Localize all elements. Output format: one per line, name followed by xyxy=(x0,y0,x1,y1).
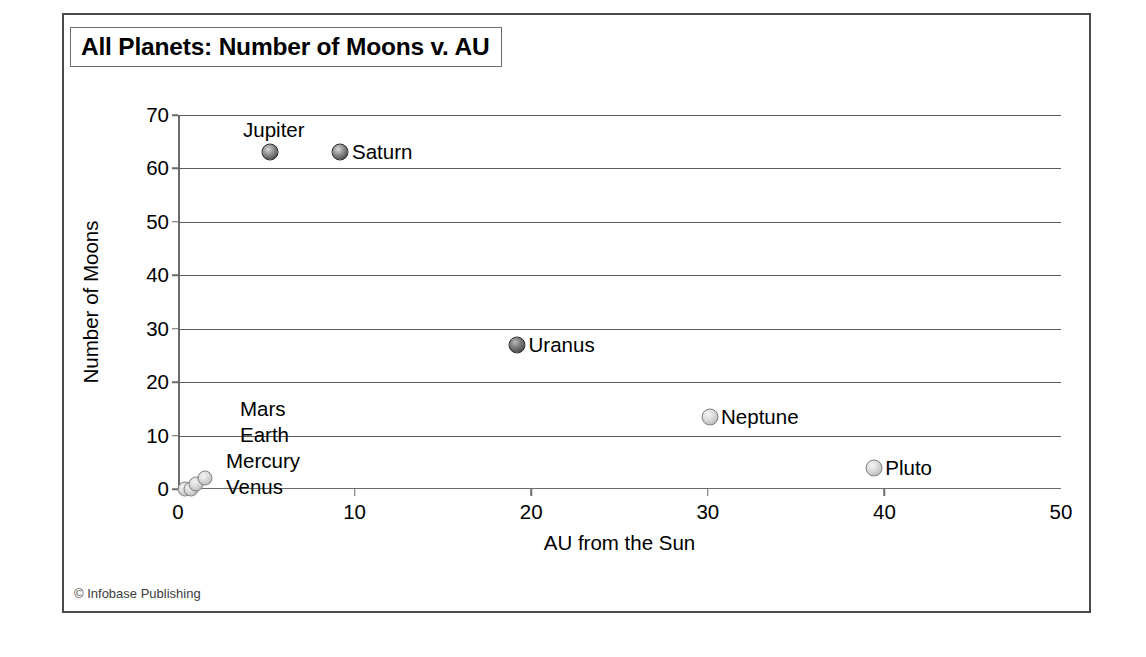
y-tick-mark xyxy=(172,168,178,170)
y-tick-label: 20 xyxy=(146,370,169,394)
label-mercury: Mercury xyxy=(226,449,300,473)
x-tick-label: 30 xyxy=(696,500,719,524)
chart-title-box: All Planets: Number of Moons v. AU xyxy=(70,27,502,67)
x-tick-mark xyxy=(354,489,356,496)
y-tick-mark xyxy=(172,221,178,223)
y-tick-mark xyxy=(172,435,178,437)
copyright-credit: © Infobase Publishing xyxy=(74,586,201,601)
y-tick-mark xyxy=(172,328,178,330)
data-point-pluto[interactable] xyxy=(865,459,882,476)
data-point-uranus[interactable] xyxy=(509,336,526,353)
page-title: All Planets: Number of Moons v. AU xyxy=(81,33,489,61)
y-tick-label: 40 xyxy=(146,263,169,287)
x-tick-label: 10 xyxy=(343,500,366,524)
label-saturn: Saturn xyxy=(352,140,412,164)
label-neptune: Neptune xyxy=(721,405,799,429)
x-axis-title: AU from the Sun xyxy=(178,531,1061,555)
label-jupiter: Jupiter xyxy=(243,118,305,142)
gridline xyxy=(178,222,1061,223)
label-pluto: Pluto xyxy=(885,456,932,480)
y-tick-label: 70 xyxy=(146,103,169,127)
y-tick-label: 60 xyxy=(146,156,169,180)
x-tick-label: 40 xyxy=(873,500,896,524)
y-tick-label: 50 xyxy=(146,210,169,234)
x-tick-label: 0 xyxy=(172,500,183,524)
chart-figure-frame: All Planets: Number of Moons v. AU Numbe… xyxy=(62,13,1091,613)
data-point-saturn[interactable] xyxy=(332,144,349,161)
x-tick-label: 20 xyxy=(520,500,543,524)
gridline xyxy=(178,436,1061,437)
x-tick-mark xyxy=(884,489,886,496)
gridline xyxy=(178,168,1061,169)
x-axis-title-text: AU from the Sun xyxy=(544,531,696,554)
data-point-mars[interactable] xyxy=(197,471,212,486)
x-tick-label: 50 xyxy=(1050,500,1073,524)
x-axis-line xyxy=(178,488,1061,490)
label-earth: Earth xyxy=(240,423,289,447)
gridline xyxy=(178,382,1061,383)
y-tick-label: 30 xyxy=(146,317,169,341)
gridline xyxy=(178,329,1061,330)
label-uranus: Uranus xyxy=(529,333,595,357)
y-axis-line xyxy=(178,115,180,489)
label-venus: Venus xyxy=(226,475,283,499)
label-mars: Mars xyxy=(240,397,286,421)
gridline xyxy=(178,275,1061,276)
data-point-jupiter[interactable] xyxy=(261,144,278,161)
y-tick-mark xyxy=(172,114,178,116)
y-tick-label: 0 xyxy=(158,477,169,501)
y-tick-mark xyxy=(172,381,178,383)
y-axis-title: Number of Moons xyxy=(78,115,104,489)
data-point-neptune[interactable] xyxy=(701,408,718,425)
x-tick-mark xyxy=(530,489,532,496)
y-tick-label: 10 xyxy=(146,424,169,448)
plot-area: 010203040506070 01020304050 JupiterSatur… xyxy=(178,115,1061,489)
x-tick-mark xyxy=(707,489,709,496)
y-tick-mark xyxy=(172,275,178,277)
y-axis-title-text: Number of Moons xyxy=(79,221,103,384)
gridline xyxy=(178,115,1061,116)
